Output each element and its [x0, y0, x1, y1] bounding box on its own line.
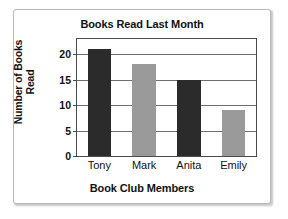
- x-tick-label-emily: Emily: [220, 159, 247, 171]
- x-tick-label-tony: Tony: [88, 159, 111, 171]
- x-tick-label-mark: Mark: [132, 159, 156, 171]
- bars-group: [77, 39, 256, 156]
- x-tick-label-anita: Anita: [176, 159, 201, 171]
- plot-area: 05101520 TonyMarkAnitaEmily: [76, 38, 257, 157]
- chart-figure-frame: Books Read Last Month Number of Books Re…: [13, 9, 271, 204]
- bar-mark: [132, 64, 155, 156]
- bar-emily: [222, 110, 245, 156]
- bar-anita: [177, 80, 200, 156]
- y-tick-label: 15: [59, 74, 71, 86]
- y-tick-label: 0: [65, 150, 71, 162]
- bar-tony: [88, 49, 111, 156]
- y-axis-title: Number of Books Read: [12, 27, 36, 137]
- y-tick-label: 20: [59, 48, 71, 60]
- x-axis-title: Book Club Members: [14, 182, 270, 194]
- y-tick-label: 10: [59, 99, 71, 111]
- y-tick-label: 5: [65, 125, 71, 137]
- y-tick-mark: [73, 156, 77, 157]
- chart-title: Books Read Last Month: [14, 18, 270, 30]
